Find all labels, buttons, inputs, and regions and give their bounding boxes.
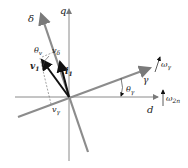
delta-label: δ xyxy=(28,13,34,24)
v-delta-label: vδ xyxy=(52,46,61,56)
dq-vector-diagram: δ q d γ v1 i1 θv vδ vγ θγ ωγ ω2n xyxy=(0,0,188,168)
v1-label: v1 xyxy=(30,61,39,72)
omega-2n-label: ω2n xyxy=(166,94,180,104)
theta-gamma-arc xyxy=(121,78,123,96)
projection-lines xyxy=(40,52,54,104)
theta-v-label: θv xyxy=(34,46,43,56)
omega-gamma-label: ωγ xyxy=(161,60,172,71)
d-label: d xyxy=(147,104,153,115)
v-gamma-label: vγ xyxy=(52,105,61,116)
theta-gamma-label: θγ xyxy=(126,85,135,96)
q-label: q xyxy=(60,5,66,16)
omega-gamma-arrow xyxy=(155,57,160,72)
gamma-label: γ xyxy=(143,75,149,85)
